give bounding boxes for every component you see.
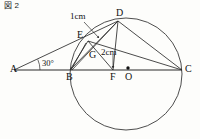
segment-DF bbox=[113, 21, 118, 70]
angle-label-30deg: 30° bbox=[42, 59, 54, 68]
point-label-G: G bbox=[89, 50, 96, 60]
geometry-diagram bbox=[0, 0, 200, 139]
figure-container: 図 2 A B C D E F G bbox=[0, 0, 200, 139]
point-label-F: F bbox=[110, 72, 116, 82]
dimension-label-2cm: 2cm bbox=[101, 48, 117, 57]
point-label-E: E bbox=[77, 30, 83, 40]
point-label-A: A bbox=[10, 64, 17, 74]
segment-DC bbox=[118, 21, 182, 70]
point-label-D: D bbox=[116, 8, 123, 18]
dimension-label-1cm: 1cm bbox=[70, 12, 86, 21]
angle-arc-A bbox=[38, 60, 40, 71]
point-label-C: C bbox=[185, 64, 192, 74]
center-point-dot bbox=[126, 66, 129, 69]
point-label-B: B bbox=[66, 72, 73, 82]
point-label-O: O bbox=[125, 72, 132, 82]
